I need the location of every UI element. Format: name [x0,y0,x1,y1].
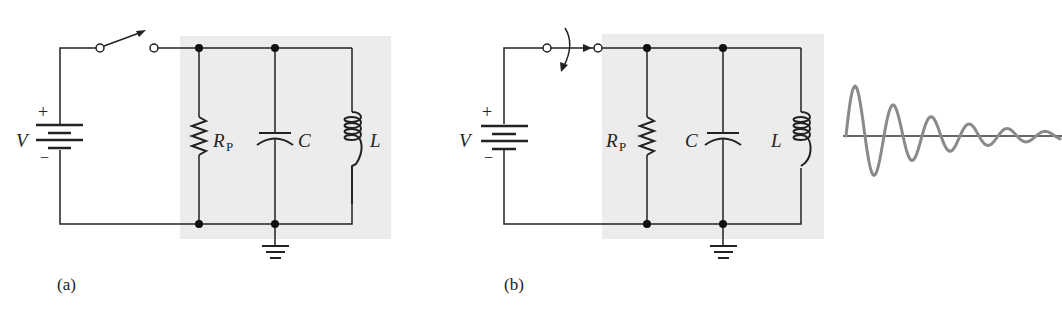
switch-arrow-icon-b [583,44,592,52]
plus-sign-a: + [38,102,48,122]
resistor-subscript-b: P [619,139,626,154]
panel-a: + V − R P C L (a) [16,30,391,294]
resistor-label-b: R [605,130,618,151]
figure-canvas: + V − R P C L (a) [0,0,1062,315]
ground-icon-a [262,246,289,258]
waveform-curve [846,86,1060,175]
inductor-label-a: L [369,130,381,151]
capacitor-label-a: C [298,130,311,151]
ground-icon-b [710,246,737,258]
battery-icon-a [36,125,83,148]
switch-icon-a [96,30,158,52]
source-label-a: V [16,130,30,151]
caption-a: (a) [57,275,76,294]
minus-sign-b: − [484,149,493,166]
resistor-subscript-a: P [226,139,233,154]
resistor-label-a: R [212,130,225,151]
tank-shading-b [602,34,824,239]
damped-oscillation-waveform [843,86,1062,175]
panel-b: + V − R P C L (b) [459,28,824,294]
minus-sign-a: − [40,149,49,166]
plus-sign-b: + [482,102,492,122]
caption-b: (b) [504,275,524,294]
battery-icon-b [481,126,528,149]
switch-closing-arrow-icon [560,28,570,72]
source-label-b: V [459,130,473,151]
capacitor-label-b: C [685,130,698,151]
inductor-label-b: L [770,130,782,151]
